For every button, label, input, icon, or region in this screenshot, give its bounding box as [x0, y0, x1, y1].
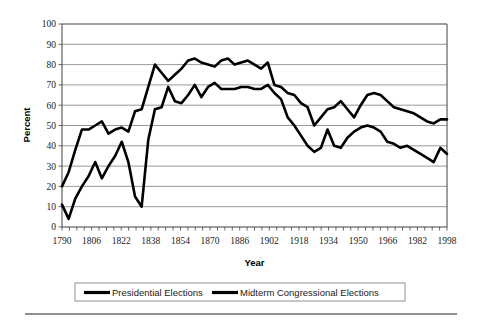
y-tick-label-0: 0 [51, 222, 56, 232]
y-tick-label-10: 10 [47, 202, 57, 212]
legend: Presidential Elections Midterm Congressi… [75, 283, 405, 301]
y-tick-label-90: 90 [47, 40, 57, 50]
x-tick-label-1838: 1838 [141, 236, 160, 246]
y-tick-label-20: 20 [47, 182, 57, 192]
y-tick-label-50: 50 [47, 121, 57, 131]
legend-label-midterm-congressional-elections: Midterm Congressional Elections [240, 287, 379, 298]
turnout-line-chart: 0102030405060708090100 17901806182218381… [0, 0, 482, 325]
x-tick-label-1998: 1998 [438, 236, 457, 246]
y-tick-label-70: 70 [47, 80, 57, 90]
x-tick-label-1902: 1902 [260, 236, 279, 246]
x-axis-title: Year [244, 257, 264, 268]
x-tick-label-1934: 1934 [319, 236, 338, 246]
y-tick-label-30: 30 [47, 162, 57, 172]
x-tick-label-1886: 1886 [230, 236, 249, 246]
y-tick-label-40: 40 [47, 141, 57, 151]
y-tick-label-60: 60 [47, 101, 57, 111]
x-tick-label-1950: 1950 [349, 236, 368, 246]
x-tick-label-1854: 1854 [171, 236, 190, 246]
legend-label-presidential-elections: Presidential Elections [112, 287, 203, 298]
x-tick-label-1806: 1806 [82, 236, 101, 246]
x-tick-label-1918: 1918 [289, 236, 308, 246]
y-axis-title: Percent [21, 107, 32, 143]
x-tick-label-1982: 1982 [408, 236, 427, 246]
x-tick-label-1870: 1870 [201, 236, 220, 246]
chart-figure: 0102030405060708090100 17901806182218381… [0, 0, 482, 325]
x-tick-label-1822: 1822 [112, 236, 131, 246]
y-tick-label-80: 80 [47, 60, 57, 70]
y-tick-label-100: 100 [42, 19, 57, 29]
x-tick-label-1790: 1790 [53, 236, 72, 246]
x-tick-label-1966: 1966 [378, 236, 397, 246]
